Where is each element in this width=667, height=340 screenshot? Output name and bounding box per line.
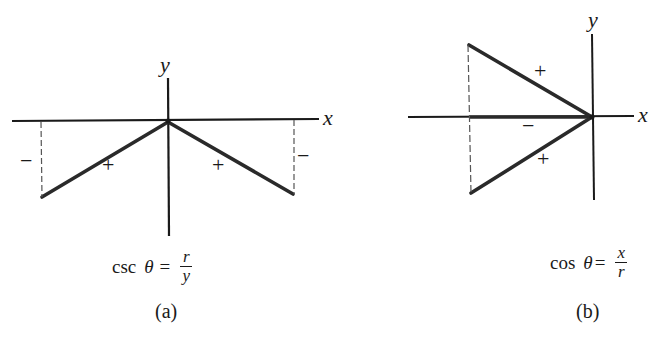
figure-a-origin xyxy=(166,119,171,124)
fraction-denominator: r xyxy=(618,264,625,280)
figure-a-sign-left-r: + xyxy=(102,154,114,176)
formula-function: csc xyxy=(112,256,136,278)
figure-a-formula: csc θ = r y xyxy=(112,249,192,284)
figure-b-terminal-side-upper xyxy=(469,45,592,117)
figure-b-caption: (b) xyxy=(576,301,599,321)
figure-a-terminal-side-right xyxy=(168,122,293,194)
figure-a-y-label: y xyxy=(160,54,170,76)
figure-b-dashed-vertical xyxy=(468,45,471,193)
formula-variable: θ xyxy=(144,256,153,278)
figure-b-sign-upper-r: + xyxy=(534,60,546,82)
formula-fraction: x r xyxy=(615,245,627,280)
formula-fraction: r y xyxy=(180,249,192,284)
figure-b-x-label: x xyxy=(638,104,648,126)
figure-a-x-axis xyxy=(12,119,319,121)
figure-b-formula: cos θ = x r xyxy=(550,245,627,280)
figure-a-sign-right-r: + xyxy=(212,154,224,176)
formula-equals: = xyxy=(595,252,606,274)
figure-a-lines xyxy=(12,78,319,236)
figure-a-y-axis xyxy=(168,78,169,236)
figure-a-sign-left-y: − xyxy=(20,150,32,172)
fraction-numerator: r xyxy=(183,249,190,265)
fraction-numerator: x xyxy=(618,245,626,261)
figure-b-sign-x: − xyxy=(522,115,534,137)
figure-a-sign-right-y: − xyxy=(297,145,309,167)
figure-b-lines xyxy=(408,34,634,200)
figure-a-caption: (a) xyxy=(155,301,177,321)
figure-b-y-label: y xyxy=(588,9,598,31)
figure-a-dashed-left xyxy=(41,122,42,197)
figure-b-origin xyxy=(590,115,595,120)
figure-a-x-label: x xyxy=(323,107,333,129)
formula-function: cos xyxy=(550,252,575,274)
figure-b-sign-lower-r: + xyxy=(537,148,549,170)
fraction-denominator: y xyxy=(183,268,191,284)
formula-equals: = xyxy=(160,256,171,278)
formula-variable: θ xyxy=(583,252,592,274)
diagram-canvas xyxy=(0,0,667,340)
